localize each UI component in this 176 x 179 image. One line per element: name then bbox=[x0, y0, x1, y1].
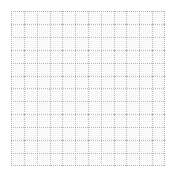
micro-grid-texture bbox=[11, 11, 165, 166]
grid-surface bbox=[11, 11, 165, 166]
grid-intersection-nodes bbox=[11, 11, 165, 166]
page-canvas: Grid Pattern bbox=[0, 0, 176, 179]
major-grid-lines bbox=[11, 11, 165, 166]
